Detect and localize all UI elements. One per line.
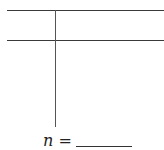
n-variable: n bbox=[43, 131, 53, 150]
right-header-cell[interactable] bbox=[57, 11, 163, 39]
equals-sign: = bbox=[53, 131, 72, 150]
t-chart-header-divider bbox=[7, 40, 164, 41]
left-header-cell[interactable] bbox=[7, 11, 54, 39]
n-equals-label: n = bbox=[43, 131, 72, 150]
left-values-column[interactable] bbox=[7, 42, 54, 126]
right-values-column[interactable] bbox=[57, 42, 163, 126]
t-chart-center-divider bbox=[55, 10, 56, 127]
n-answer-blank[interactable] bbox=[76, 146, 132, 147]
